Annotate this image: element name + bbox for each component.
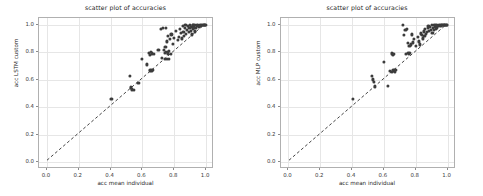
- x-tick-label: 0.8: [169, 172, 178, 178]
- x-tick-mark: [447, 168, 448, 170]
- identity-reference-line: [39, 18, 212, 167]
- x-tick-label: 0.4: [347, 172, 356, 178]
- x-tick-label: 0.0: [42, 172, 51, 178]
- x-tick-label: 0.2: [315, 172, 324, 178]
- plot-area-left: [38, 17, 213, 168]
- x-tick-mark: [351, 168, 352, 170]
- y-tick-mark: [36, 79, 38, 80]
- x-tick-label: 1.0: [201, 172, 210, 178]
- x-tick-mark: [415, 168, 416, 170]
- x-tick-mark: [110, 168, 111, 170]
- y-tick-mark: [278, 161, 280, 162]
- figure-scatter-accuracies: scatter plot of accuracies acc LSTM cust…: [0, 0, 483, 196]
- y-tick-label: 0.8: [17, 48, 34, 54]
- x-tick-mark: [319, 168, 320, 170]
- x-axis-label-right: acc mean individual: [280, 180, 455, 186]
- panel-left: scatter plot of accuracies acc LSTM cust…: [0, 0, 242, 196]
- y-tick-label: 1.0: [17, 21, 34, 27]
- y-tick-label: 0.6: [259, 76, 276, 82]
- y-tick-label: 1.0: [259, 21, 276, 27]
- x-tick-mark: [78, 168, 79, 170]
- y-tick-mark: [278, 24, 280, 25]
- x-tick-mark: [383, 168, 384, 170]
- y-tick-label: 0.2: [259, 131, 276, 137]
- x-axis-label-left: acc mean individual: [38, 180, 213, 186]
- x-tick-mark: [173, 168, 174, 170]
- y-tick-label: 0.4: [17, 103, 34, 109]
- y-tick-label: 0.0: [259, 158, 276, 164]
- y-tick-mark: [36, 134, 38, 135]
- panel-right: scatter plot of accuracies acc MLP custo…: [242, 0, 483, 196]
- y-tick-mark: [278, 79, 280, 80]
- chart-title-right: scatter plot of accuracies: [280, 4, 455, 11]
- y-tick-mark: [278, 134, 280, 135]
- x-tick-label: 0.4: [105, 172, 114, 178]
- y-tick-mark: [278, 51, 280, 52]
- x-tick-label: 0.8: [410, 172, 419, 178]
- x-tick-label: 1.0: [442, 172, 451, 178]
- y-tick-label: 0.8: [259, 48, 276, 54]
- y-tick-label: 0.2: [17, 131, 34, 137]
- y-tick-mark: [36, 106, 38, 107]
- x-tick-label: 0.6: [379, 172, 388, 178]
- y-tick-mark: [36, 51, 38, 52]
- y-tick-label: 0.6: [17, 76, 34, 82]
- identity-reference-line: [281, 18, 454, 167]
- y-tick-label: 0.0: [17, 158, 34, 164]
- chart-title-left: scatter plot of accuracies: [38, 4, 213, 11]
- x-tick-mark: [141, 168, 142, 170]
- x-tick-label: 0.0: [283, 172, 292, 178]
- x-tick-mark: [46, 168, 47, 170]
- plot-area-right: [280, 17, 455, 168]
- x-tick-label: 0.6: [137, 172, 146, 178]
- y-tick-mark: [36, 161, 38, 162]
- x-tick-mark: [205, 168, 206, 170]
- y-tick-label: 0.4: [259, 103, 276, 109]
- x-tick-label: 0.2: [73, 172, 82, 178]
- y-tick-mark: [36, 24, 38, 25]
- x-tick-mark: [287, 168, 288, 170]
- y-tick-mark: [278, 106, 280, 107]
